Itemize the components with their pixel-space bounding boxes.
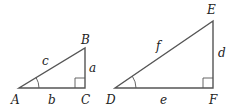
triangle-abc: A B C a b c: [10, 33, 96, 107]
angle-arc-d: [132, 76, 136, 88]
side-label-e: e: [160, 93, 167, 107]
vertex-label-b: B: [80, 33, 90, 47]
angle-arc-a: [36, 78, 39, 88]
similar-triangles-diagram: A B C a b c D E F d e f: [0, 0, 235, 108]
side-label-b: b: [48, 93, 56, 107]
side-label-a: a: [89, 61, 96, 75]
triangle-def: D E F d e f: [105, 3, 226, 107]
side-label-c: c: [42, 54, 49, 68]
triangle-def-outline: [115, 21, 213, 88]
vertex-label-f: F: [208, 93, 218, 107]
vertex-label-e: E: [206, 3, 216, 17]
vertex-label-d: D: [105, 93, 116, 107]
vertex-label-c: C: [81, 93, 90, 107]
side-label-d: d: [218, 46, 226, 60]
side-label-f: f: [155, 39, 163, 53]
right-angle-marker-c: [75, 78, 85, 88]
right-angle-marker-f: [203, 78, 213, 88]
vertex-label-a: A: [10, 93, 20, 107]
